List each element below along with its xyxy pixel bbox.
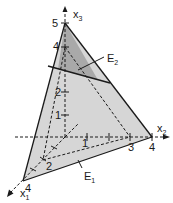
x2-label-1: 1 [82, 137, 88, 149]
x1-label-2: 2 [46, 160, 52, 172]
x2-label-3: 3 [128, 141, 134, 153]
x3-label-5: 5 [52, 17, 58, 29]
coordinate-diagram: x3 x2 x1 5 4 2 1 1 3 4 2 4 E2 E1 [0, 0, 173, 203]
x2-axis-label: x2 [157, 122, 167, 136]
x1-label-4: 4 [25, 182, 31, 194]
plane-e1-triangle [23, 23, 152, 181]
x3-arrow-icon [63, 6, 68, 12]
x3-label-1: 1 [55, 109, 61, 121]
plane-e1-label: E1 [84, 170, 95, 184]
x3-label-2: 2 [55, 86, 61, 98]
x2-label-4: 4 [149, 141, 155, 153]
x3-axis-label: x3 [73, 8, 83, 22]
plane-e2-label: E2 [107, 52, 118, 66]
x3-label-4: 4 [53, 40, 59, 52]
